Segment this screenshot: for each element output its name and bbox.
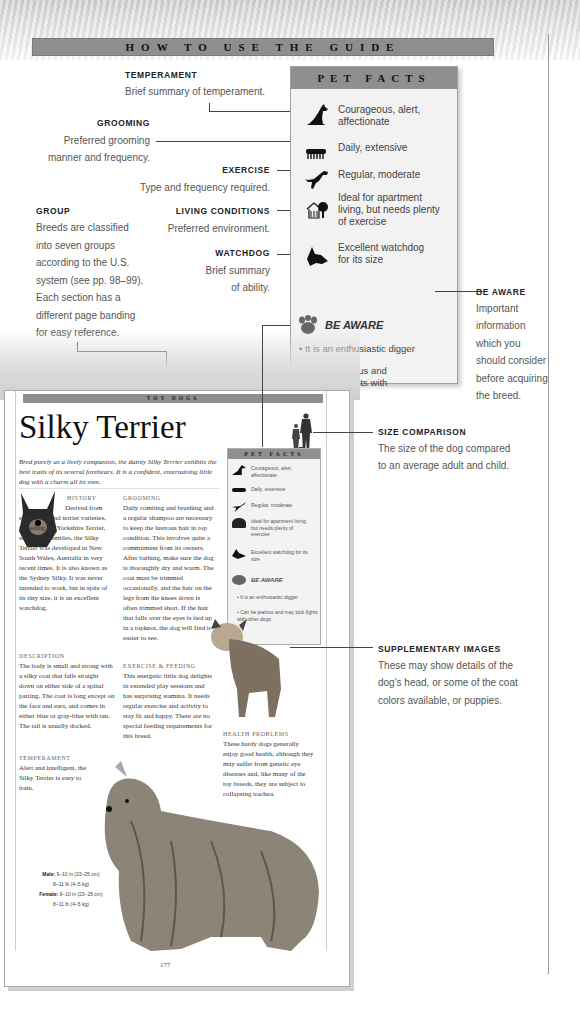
be-aware-label: BE AWARE bbox=[476, 287, 526, 297]
history-heading: History bbox=[67, 495, 97, 501]
pet-facts-row-grooming: Daily, extensive bbox=[291, 142, 457, 164]
grooming-label: GROOMING bbox=[60, 118, 150, 128]
watchdog-text-2: of ability. bbox=[180, 279, 270, 297]
temperament-heading: Temperament bbox=[19, 755, 71, 761]
pet-facts-row-temperament: Courageous, alert,affectionate bbox=[291, 104, 457, 128]
group-label: GROUP bbox=[36, 206, 70, 216]
size-comparison-text: to an average adult and child. bbox=[378, 457, 509, 475]
watchdog-label: WATCHDOG bbox=[180, 248, 270, 258]
mini-pet-facts-panel: PET FACTS Courageous, alert, affectionat… bbox=[227, 448, 321, 645]
temperament-label: TEMPERAMENT bbox=[125, 70, 197, 80]
exercise-feeding-text: This energetic little dog delights in ex… bbox=[123, 671, 215, 741]
leader-line bbox=[313, 432, 373, 433]
pet-facts-row-watchdog: Excellent watchdogfor its size bbox=[291, 242, 457, 268]
house-tree-icon bbox=[304, 198, 330, 220]
leader-line bbox=[290, 647, 373, 648]
leader-line bbox=[262, 325, 290, 326]
sitting-dog-icon bbox=[304, 104, 330, 126]
leaping-dog-icon bbox=[232, 502, 246, 512]
grooming-text: Daily combing and brushing and a regular… bbox=[123, 503, 215, 643]
health-heading: Health Problems bbox=[223, 731, 289, 737]
exercise-label: EXERCISE bbox=[180, 165, 270, 175]
leaping-dog-icon bbox=[304, 169, 330, 191]
description-heading: Description bbox=[19, 653, 65, 659]
supplementary-images-text: dog's head, or some of the coat bbox=[378, 674, 518, 692]
main-dog-image bbox=[91, 761, 325, 961]
pet-facts-title: PET FACTS bbox=[291, 67, 457, 89]
supplementary-images-text: These may show details of the bbox=[378, 657, 513, 675]
supplementary-images-label: SUPPLEMENTARY IMAGES bbox=[378, 644, 501, 654]
comb-icon bbox=[304, 142, 330, 164]
grooming-heading: Grooming bbox=[123, 495, 161, 501]
living-conditions-text: Preferred environment. bbox=[140, 220, 270, 238]
breed-title: Silky Terrier bbox=[19, 409, 186, 446]
pet-facts-row-living: Ideal for apartmentliving, but needs ple… bbox=[291, 192, 457, 228]
living-conditions-label: LIVING CONDITIONS bbox=[150, 206, 270, 216]
grooming-text-2: manner and frequency. bbox=[20, 149, 150, 167]
leader-line bbox=[156, 141, 312, 142]
description-text: The body is small and strong with a silk… bbox=[19, 661, 115, 731]
sample-breed-page: TOY DOGS Silky Terrier Bred purely as a … bbox=[4, 390, 350, 987]
paw-icon bbox=[232, 575, 246, 585]
dog-head-icon bbox=[232, 549, 246, 559]
comb-icon bbox=[232, 488, 246, 492]
house-tree-icon bbox=[232, 518, 246, 528]
temperament-text: Alert and intelligent, the Silky Terrier… bbox=[19, 763, 89, 793]
dog-head-icon bbox=[304, 246, 330, 268]
history-text: Derived from several toy and terrier var… bbox=[19, 503, 115, 613]
exercise-feeding-heading: Exercise & Feeding bbox=[123, 663, 196, 669]
page-number: 177 bbox=[160, 961, 171, 969]
guide-banner: HOW TO USE THE GUIDE bbox=[32, 38, 494, 56]
watchdog-text-1: Brief summary bbox=[180, 262, 270, 280]
pet-facts-row-exercise: Regular, moderate bbox=[291, 169, 457, 191]
supplementary-images-text: colors available, or puppies. bbox=[378, 692, 502, 710]
group-banding: TOY DOGS bbox=[23, 394, 323, 403]
sitting-dog-icon bbox=[232, 465, 246, 475]
temperament-text: Brief summary of temperament. bbox=[125, 83, 265, 101]
page-edge-rule bbox=[548, 34, 549, 974]
exercise-text: Type and frequency required. bbox=[100, 179, 270, 197]
supplementary-dog-image bbox=[209, 619, 285, 719]
breed-intro: Bred purely as a lively companion, the d… bbox=[19, 457, 219, 487]
size-stats: Male: 9–10 in (23–25 cm) 8–11 lb (4–5 kg… bbox=[31, 869, 111, 909]
grooming-text-1: Preferred grooming bbox=[20, 132, 150, 150]
size-comparison-label: SIZE COMPARISON bbox=[378, 427, 466, 437]
size-comparison-text: The size of the dog compared bbox=[378, 440, 510, 458]
leader-line bbox=[262, 325, 263, 447]
